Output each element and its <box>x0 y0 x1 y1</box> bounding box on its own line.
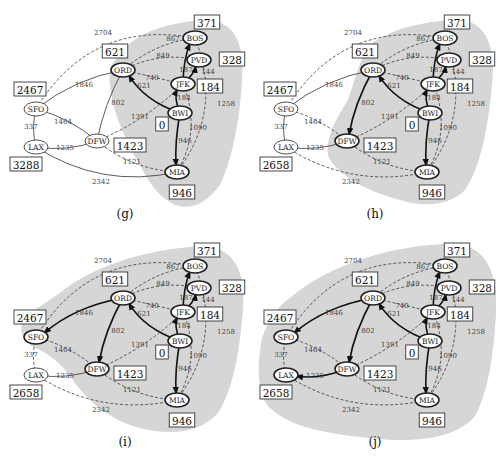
svg-text:184: 184 <box>200 81 220 93</box>
distance-label-pvd: 328 <box>469 280 495 294</box>
distance-label-lax: 3288 <box>10 157 42 171</box>
svg-text:1423: 1423 <box>117 140 144 152</box>
node-mia: MIA <box>165 165 189 179</box>
edge-weight-label: 740 <box>395 302 408 310</box>
svg-text:SFO: SFO <box>28 105 45 114</box>
edge-weight-label: 1258 <box>217 328 235 336</box>
distance-label-pvd: 328 <box>219 280 245 294</box>
svg-text:621: 621 <box>355 274 375 286</box>
edge-weight-label: 1391 <box>131 113 149 121</box>
panel-caption: (i) <box>118 435 131 449</box>
edge-weight-label: 337 <box>24 123 37 131</box>
edge-weight-label: 1235 <box>56 144 74 152</box>
node-ord: ORD <box>111 63 135 77</box>
svg-text:371: 371 <box>447 17 467 29</box>
svg-text:1423: 1423 <box>117 368 144 380</box>
edge-weight-label: 2704 <box>344 29 362 37</box>
svg-text:946: 946 <box>172 187 192 199</box>
svg-text:JFK: JFK <box>425 308 440 317</box>
edge-weight-label: 337 <box>24 351 37 359</box>
edge-weight-label: 1391 <box>381 113 399 121</box>
distance-label-pvd: 328 <box>469 52 495 66</box>
svg-text:LAX: LAX <box>278 371 294 380</box>
node-mia: MIA <box>165 393 189 407</box>
distance-label-dfw: 1423 <box>114 138 146 152</box>
edge-weight-label: 1391 <box>381 341 399 349</box>
edge-weight-label: 337 <box>274 351 287 359</box>
svg-text:371: 371 <box>197 17 217 29</box>
distance-label-jfk: 184 <box>197 307 223 321</box>
edge-weight-label: 849 <box>156 52 169 60</box>
svg-text:SFO: SFO <box>278 333 295 342</box>
distance-label-jfk: 184 <box>447 79 473 93</box>
distance-label-lax: 2658 <box>260 157 292 171</box>
svg-text:328: 328 <box>222 54 242 66</box>
svg-text:184: 184 <box>450 81 470 93</box>
node-sfo: SFO <box>274 102 298 116</box>
node-ord: ORD <box>361 63 385 77</box>
edge-weight-label: 1121 <box>123 386 141 394</box>
node-pvd: PVD <box>187 53 211 67</box>
svg-text:LAX: LAX <box>28 143 44 152</box>
edge-weight-label: 1846 <box>325 81 343 89</box>
svg-text:BOS: BOS <box>187 262 204 271</box>
svg-text:PVD: PVD <box>191 56 207 65</box>
panel-j: 2704867849740621187144184946109012588021… <box>250 228 501 456</box>
svg-text:SFO: SFO <box>278 105 295 114</box>
graph-g: 2704867849740621187144184946109012588021… <box>0 0 251 228</box>
svg-text:184: 184 <box>200 309 220 321</box>
svg-text:DFW: DFW <box>338 365 357 374</box>
svg-text:JFK: JFK <box>425 80 440 89</box>
distance-label-ord: 621 <box>352 44 378 58</box>
distance-label-sfo: 2467 <box>264 82 296 96</box>
node-jfk: JFK <box>421 77 445 91</box>
node-jfk: JFK <box>171 305 195 319</box>
svg-text:0: 0 <box>409 119 416 131</box>
svg-text:946: 946 <box>172 415 192 427</box>
svg-text:BOS: BOS <box>437 262 454 271</box>
edge-weight-label: 337 <box>274 123 287 131</box>
svg-text:328: 328 <box>222 282 242 294</box>
edge-weight-label: 1846 <box>325 309 343 317</box>
edge-weight-label: 621 <box>137 310 150 318</box>
node-lax: LAX <box>274 140 298 154</box>
node-sfo: SFO <box>274 330 298 344</box>
edge-weight-label: 849 <box>406 280 419 288</box>
svg-text:PVD: PVD <box>441 56 457 65</box>
edge-weight-label: 802 <box>361 99 374 107</box>
svg-text:946: 946 <box>422 415 442 427</box>
edge-weight-label: 1258 <box>467 328 485 336</box>
edge-weight-label: 1090 <box>189 124 207 132</box>
edge-weight-label: 184 <box>427 322 441 330</box>
edge-weight-label: 2704 <box>94 257 112 265</box>
edge-weight-label: 2704 <box>94 29 112 37</box>
svg-text:0: 0 <box>159 347 166 359</box>
distance-label-lax: 2658 <box>10 385 42 399</box>
node-dfw: DFW <box>335 134 359 148</box>
node-bwi: BWI <box>168 106 192 120</box>
distance-label-dfw: 1423 <box>114 366 146 380</box>
svg-text:2658: 2658 <box>13 387 40 399</box>
distance-label-jfk: 184 <box>447 307 473 321</box>
panel-caption: (g) <box>116 207 133 221</box>
svg-text:371: 371 <box>447 245 467 257</box>
svg-text:BWI: BWI <box>422 109 438 118</box>
svg-text:ORD: ORD <box>114 294 132 303</box>
svg-text:ORD: ORD <box>114 66 132 75</box>
svg-text:ORD: ORD <box>364 294 382 303</box>
edge-weight-label: 187 <box>429 294 442 302</box>
edge-weight-label: 1258 <box>217 100 235 108</box>
node-bos: BOS <box>183 31 207 45</box>
svg-text:BWI: BWI <box>172 109 188 118</box>
svg-text:2467: 2467 <box>267 312 294 324</box>
panel-caption: (h) <box>366 207 383 221</box>
graph-i: 2704867849740621187144184946109012588021… <box>0 228 251 456</box>
svg-text:MIA: MIA <box>169 168 186 177</box>
edge-weight-label: 1846 <box>75 309 93 317</box>
svg-text:328: 328 <box>472 54 492 66</box>
panel-caption: (j) <box>368 435 381 449</box>
distance-label-bos: 371 <box>194 243 220 257</box>
edge-weight-label: 184 <box>177 322 191 330</box>
distance-label-ord: 621 <box>352 272 378 286</box>
svg-text:2658: 2658 <box>263 387 290 399</box>
